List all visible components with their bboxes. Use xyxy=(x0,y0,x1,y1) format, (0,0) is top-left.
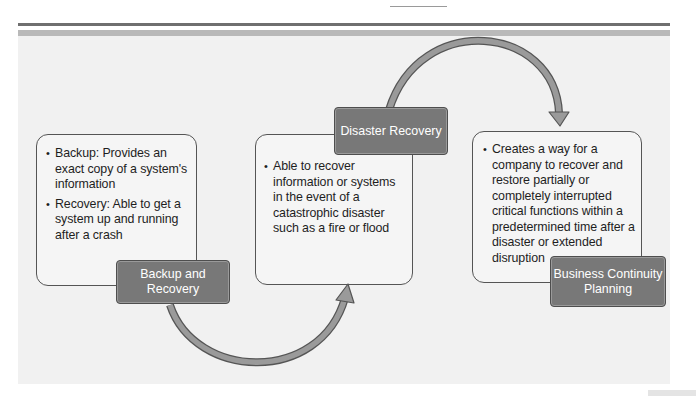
label-line: Recovery xyxy=(140,282,205,297)
label-backup-and-recovery: Backup and Recovery xyxy=(116,260,230,304)
connector-arrows xyxy=(0,0,696,396)
label-disaster-recovery: Disaster Recovery xyxy=(334,107,448,155)
label-line: Planning xyxy=(554,282,663,297)
label-business-continuity-planning: Business Continuity Planning xyxy=(550,256,666,307)
label-line: Backup and xyxy=(140,267,205,282)
label-line: Disaster Recovery xyxy=(340,124,441,139)
label-line: Business Continuity xyxy=(554,267,663,282)
